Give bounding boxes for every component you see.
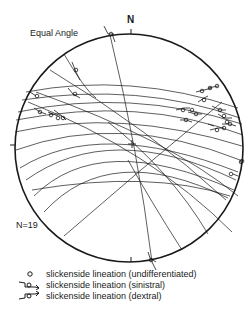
great-circles xyxy=(15,35,243,262)
primitive-circle xyxy=(15,34,243,262)
projection-title: Equal Angle xyxy=(30,28,78,38)
lineation-symbols xyxy=(30,26,244,270)
north-label: N xyxy=(127,14,134,25)
dextral-arrow-icon xyxy=(14,290,46,301)
legend-label: slickenside lineation (undifferentiated) xyxy=(46,269,196,279)
open-circle-icon xyxy=(14,268,46,279)
legend-item-sinistral: slickenside lineation (sinistral) xyxy=(14,279,196,290)
legend: slickenside lineation (undifferentiated)… xyxy=(14,268,196,301)
sample-count: N=19 xyxy=(16,220,38,230)
sinistral-arrow-icon xyxy=(14,279,46,290)
legend-label: slickenside lineation (dextral) xyxy=(46,291,162,301)
legend-label: slickenside lineation (sinistral) xyxy=(46,280,165,290)
legend-item-undifferentiated: slickenside lineation (undifferentiated) xyxy=(14,268,196,279)
center-cross xyxy=(128,140,136,148)
legend-item-dextral: slickenside lineation (dextral) xyxy=(14,290,196,301)
